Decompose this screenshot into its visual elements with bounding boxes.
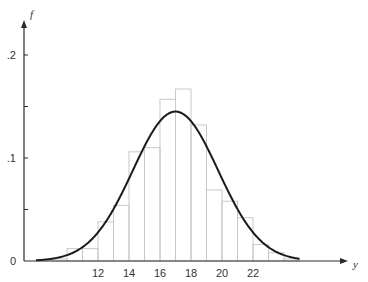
y-axis-arrow-icon [21,20,27,28]
histogram-bar [145,148,161,261]
histogram-bar [114,205,130,261]
x-tick-label: 18 [185,267,197,279]
x-tick-label: 12 [92,267,104,279]
histogram-bar [238,218,254,261]
histogram-bar [191,125,207,261]
x-axis-label: y [352,258,358,270]
histogram-bars [52,89,300,261]
x-ticks: 121416182022 [92,267,259,279]
histogram-bar [207,190,223,261]
x-axis-arrow-icon [340,258,348,264]
histogram-bar [160,99,176,261]
histogram-bar [83,249,99,261]
x-tick-label: 16 [154,267,166,279]
y-ticks: 0.1.2 [7,49,28,267]
normal-curve [36,112,300,261]
y-tick-label: .2 [7,49,16,61]
x-tick-label: 22 [247,267,259,279]
x-tick-label: 14 [123,267,135,279]
y-axis-label: f [30,8,35,20]
histogram-bar [98,222,114,261]
histogram-bar [253,245,269,261]
histogram-bar [222,201,238,261]
histogram-chart: 121416182022 0.1.2 y f [0,0,368,282]
x-tick-label: 20 [216,267,228,279]
histogram-bar [129,152,145,261]
y-tick-label: .1 [7,152,16,164]
y-tick-label: 0 [10,255,16,267]
